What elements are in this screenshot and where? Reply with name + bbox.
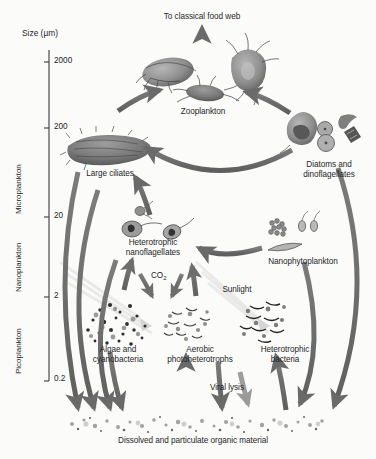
arrow-viral-lysis-secondary: [240, 372, 248, 404]
arrow-ciliates-to-zooplankton: [118, 90, 160, 111]
arrow-diatoms-to-dom: [334, 168, 357, 406]
axis-tick-0.2: 0.2: [54, 374, 65, 383]
arrow-ciliates-to-dom: [65, 172, 78, 408]
arrow-diatoms-to-zooplankton: [246, 92, 290, 113]
axis-tick-2: 2: [54, 291, 59, 300]
microbial-loop-figure: Size (µm) 2000 200 20 2 0.2 Microplankto…: [0, 0, 376, 459]
heterotrophic-nanoflagellates-organisms: [122, 201, 194, 241]
dissolved-organic-material-band: [70, 416, 324, 433]
nanophytoplankton-organisms: [268, 211, 320, 251]
arrow-co2-to-algae: [140, 274, 152, 296]
arrow-nanophyto-to-dom: [300, 262, 314, 404]
arrow-nanophyto-to-nanoflagellates: [199, 248, 262, 254]
diatoms-dinoflagellates-organisms: [280, 112, 361, 153]
arrow-bacteria-to-nanoflagellates: [192, 266, 196, 296]
arrow-diatoms-to-ciliates: [146, 148, 292, 171]
arrow-algae-to-nanoflagellates: [124, 260, 132, 290]
axis-category-microplankton: Microplankton: [14, 164, 23, 214]
aerobic-photoheterotrophs-organisms: [164, 308, 210, 341]
arrow-dom-to-bacteria: [276, 356, 286, 410]
arrow-algae-to-dom: [110, 352, 122, 408]
sunlight-rays: [60, 262, 270, 333]
axis-tick-2000: 2000: [54, 56, 72, 65]
axis-title: Size (µm): [22, 28, 58, 38]
size-axis: [44, 50, 49, 381]
axis-tick-20: 20: [54, 211, 63, 220]
axis-tick-200: 200: [54, 122, 68, 131]
flow-arrows: [65, 28, 357, 410]
arrow-co2-to-photoheterotrophs: [172, 274, 182, 296]
arrow-viral-lysis-to-dom: [218, 362, 222, 408]
diagram-canvas: [0, 0, 376, 459]
large-ciliate-organism: [60, 126, 151, 170]
axis-category-picoplankton: Picoplankton: [14, 328, 23, 374]
axis-category-nanoplankton: Nanoplankton: [14, 243, 23, 292]
